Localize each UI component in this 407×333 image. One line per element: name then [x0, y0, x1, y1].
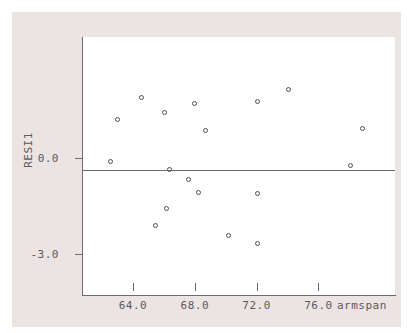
- data-point: [115, 117, 120, 122]
- y-tick-label: -3.0: [31, 248, 60, 261]
- x-tick-label: 68.0: [181, 299, 210, 312]
- data-point: [226, 233, 231, 238]
- chart-canvas: 0.0-3.0 64.068.072.076.0 RESI1 armspan: [0, 0, 407, 333]
- y-axis-line: [82, 37, 83, 296]
- data-point: [348, 163, 353, 168]
- data-point: [164, 206, 169, 211]
- chart-panel: 0.0-3.0 64.068.072.076.0 RESI1 armspan: [12, 12, 401, 327]
- x-tick-label: 72.0: [242, 299, 271, 312]
- data-point: [186, 177, 191, 182]
- y-tick-label: 0.0: [38, 152, 59, 165]
- x-tick-mark: [318, 283, 319, 291]
- data-point: [286, 87, 291, 92]
- x-tick-mark: [195, 283, 196, 291]
- x-tick-mark: [133, 283, 134, 291]
- y-tick-mark: [75, 158, 83, 159]
- y-axis-label: RESI1: [22, 132, 35, 168]
- x-tick-mark: [257, 283, 258, 291]
- x-axis-label: armspan: [337, 299, 387, 312]
- x-tick-label: 76.0: [304, 299, 333, 312]
- x-tick-label: 64.0: [119, 299, 148, 312]
- data-point: [203, 128, 208, 133]
- y-tick-mark: [75, 254, 83, 255]
- x-axis-line: [82, 295, 396, 296]
- data-point: [192, 101, 197, 106]
- zero-reference-line: [82, 170, 395, 171]
